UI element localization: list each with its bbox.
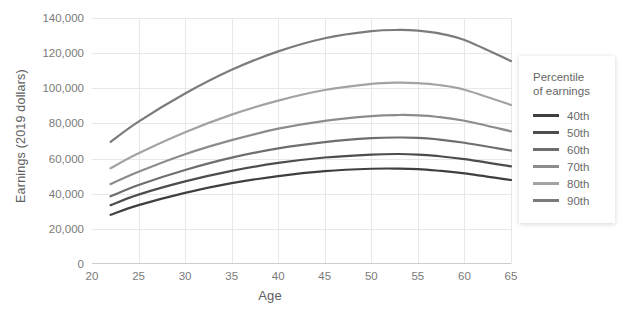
legend-label-70th: 70th [567, 161, 589, 173]
x-tick-label: 55 [411, 270, 424, 282]
x-tick-label: 60 [458, 270, 471, 282]
legend-swatch-60th [533, 148, 559, 151]
legend-item-80th[interactable]: 80th [533, 175, 603, 192]
chart-container: Earnings (2019 dollars) 020,00040,00060,… [0, 0, 629, 320]
plot-area: 020,00040,00060,00080,000100,000120,0001… [92, 18, 511, 264]
y-tick-label: 60,000 [49, 153, 84, 165]
legend: Percentile of earnings 40th50th60th70th8… [519, 56, 615, 223]
x-tick-label: 25 [132, 270, 145, 282]
legend-item-60th[interactable]: 60th [533, 141, 603, 158]
legend-label-80th: 80th [567, 178, 589, 190]
x-tick-label: 40 [272, 270, 285, 282]
legend-label-90th: 90th [567, 195, 589, 207]
x-tick-label: 50 [365, 270, 378, 282]
legend-items: 40th50th60th70th80th90th [533, 107, 603, 209]
y-tick-label: 80,000 [49, 117, 84, 129]
y-axis-title: Earnings (2019 dollars) [14, 48, 28, 224]
legend-item-70th[interactable]: 70th [533, 158, 603, 175]
x-tick-label: 20 [86, 270, 99, 282]
series-line-80th [111, 83, 511, 169]
legend-item-50th[interactable]: 50th [533, 124, 603, 141]
y-tick-label: 40,000 [49, 188, 84, 200]
legend-label-40th: 40th [567, 110, 589, 122]
legend-title-line-2: of earnings [533, 84, 603, 98]
x-tick-label: 30 [179, 270, 192, 282]
x-tick-label: 45 [318, 270, 331, 282]
chart-title [0, 0, 629, 1]
y-tick-label: 0 [78, 258, 84, 270]
x-tick-label: 65 [505, 270, 518, 282]
legend-item-90th[interactable]: 90th [533, 192, 603, 209]
legend-swatch-70th [533, 165, 559, 168]
x-tick-label: 35 [225, 270, 238, 282]
y-tick-label: 120,000 [42, 47, 84, 59]
legend-swatch-50th [533, 131, 559, 134]
legend-label-60th: 60th [567, 144, 589, 156]
legend-swatch-90th [533, 199, 559, 202]
y-tick-label: 20,000 [49, 223, 84, 235]
legend-title-line-1: Percentile [533, 70, 603, 84]
series-lines [92, 18, 511, 264]
legend-title: Percentile of earnings [533, 70, 603, 98]
legend-swatch-80th [533, 182, 559, 185]
y-tick-label: 100,000 [42, 82, 84, 94]
gridline-vertical [511, 18, 512, 264]
series-line-60th [111, 137, 511, 196]
y-tick-label: 140,000 [42, 12, 84, 24]
legend-item-40th[interactable]: 40th [533, 107, 603, 124]
x-axis-title: Age [0, 288, 540, 303]
legend-label-50th: 50th [567, 127, 589, 139]
legend-swatch-40th [533, 114, 559, 117]
